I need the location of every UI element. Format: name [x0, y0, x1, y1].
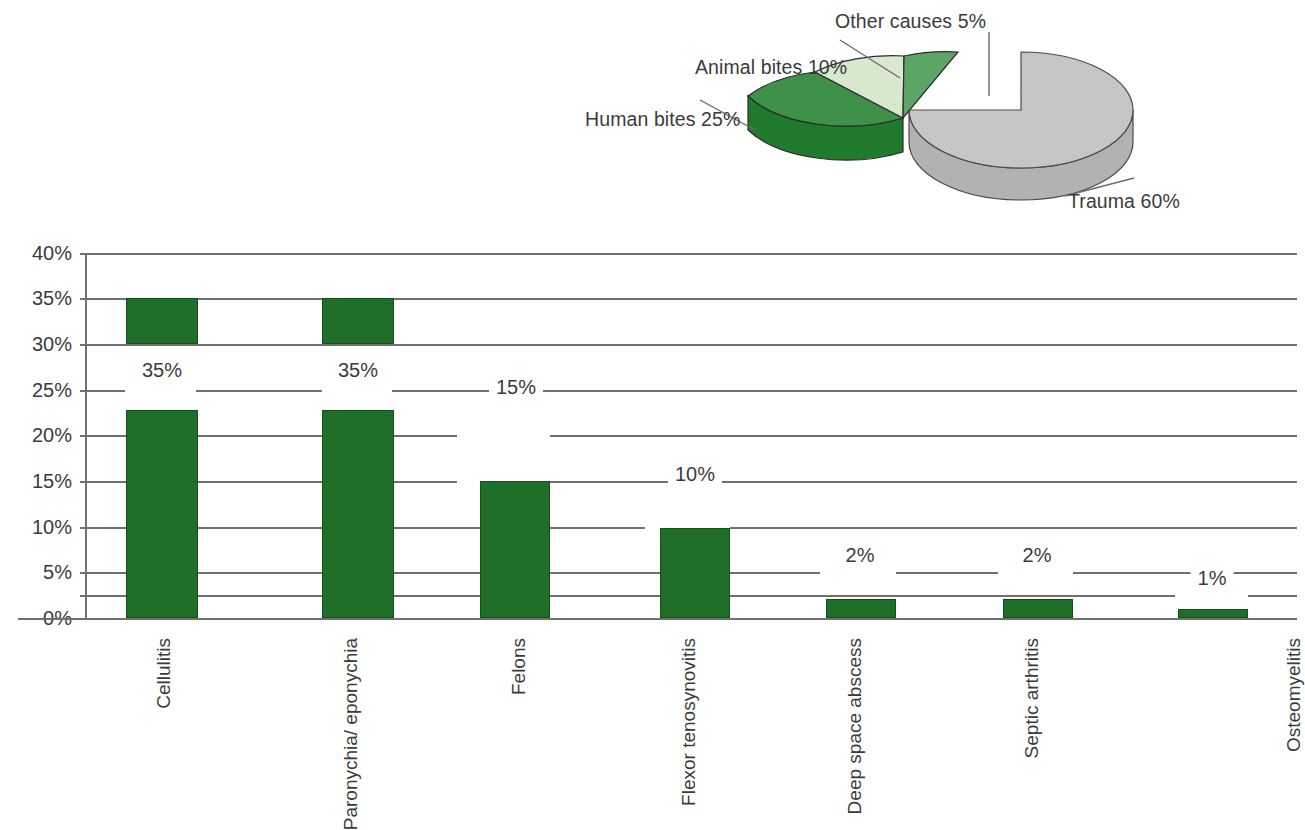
pie-slice-trauma: [908, 52, 1133, 200]
pie-graphic: [660, 0, 1297, 240]
y-tick-15: 15%: [32, 470, 72, 493]
bar-cap-cellulitis: [126, 298, 198, 344]
pie-label-trauma: Trauma 60%: [1068, 190, 1180, 213]
x-category-septic-arthritis: Septic arthritis: [1021, 638, 1043, 758]
data-label-paronychia: 35%: [331, 359, 385, 382]
gridline-5-c: [1073, 572, 1297, 574]
y-axis-line: [85, 253, 87, 620]
x-category-flexor-line1: Flexor: [678, 753, 699, 806]
data-label-cellulitis: 35%: [135, 359, 189, 382]
x-category-paronychia-line2: eponychia: [340, 638, 361, 725]
y-tick-5: 5%: [43, 561, 72, 584]
x-category-deep-space-line2: abscess: [844, 638, 865, 708]
x-category-flexor-line2: tenosynovitis: [678, 638, 699, 748]
gridline-20-b: [550, 435, 1297, 437]
x-category-paronychia-line1: Paronychia/: [340, 730, 361, 830]
pie-slice-other-causes: [903, 52, 958, 118]
bar-felons: [480, 481, 550, 618]
data-label-septic-arthritis: 2%: [1016, 544, 1059, 567]
bar-flexor-tenosynovitis: [660, 528, 730, 618]
gridline-30: [80, 344, 1297, 346]
gridline-35: [80, 298, 1297, 300]
x-category-osteomyelitis: Osteomyelitis: [1283, 638, 1305, 752]
bar-chart: 40% 35% 30% 25% 20% 15% 10% 5% 0%: [0, 240, 1297, 756]
bar-osteomyelitis: [1178, 609, 1248, 618]
y-tick-20: 20%: [32, 424, 72, 447]
x-category-felons-line1: Felons: [508, 638, 529, 695]
x-category-septic-line1: Septic: [1021, 706, 1042, 759]
y-axis-tick-labels: 40% 35% 30% 25% 20% 15% 10% 5% 0%: [0, 240, 72, 640]
gridline-5-b: [896, 572, 998, 574]
x-category-paronychia: Paronychia/ eponychia: [340, 638, 362, 830]
data-label-deep-space-abscess: 2%: [839, 544, 882, 567]
y-tick-35: 35%: [32, 287, 72, 310]
y-tick-40: 40%: [32, 242, 72, 265]
gridline-10-b: [730, 527, 1297, 529]
gridline-25-b: [196, 390, 322, 392]
bar-cellulitis: [126, 410, 198, 618]
pie-chart: Other causes 5% Animal bites 10% Human b…: [660, 0, 1297, 240]
gridline-15-b: [550, 481, 1297, 483]
bar-septic-arthritis: [1003, 599, 1073, 618]
gridline-low-b: [1248, 595, 1297, 597]
x-category-deep-space-abscess: Deep space abscess: [844, 638, 866, 814]
x-category-flexor-tenosynovitis: Flexor tenosynovitis: [678, 638, 700, 806]
data-label-felons: 15%: [489, 376, 543, 399]
pie-label-human-bites: Human bites 25%: [585, 108, 740, 131]
gridline-low-a: [80, 595, 1175, 597]
bar-paronychia: [322, 410, 394, 618]
data-label-flexor-tenosynovitis: 10%: [668, 463, 722, 486]
x-axis-line: [18, 618, 1297, 620]
data-label-osteomyelitis: 1%: [1191, 567, 1234, 590]
x-category-deep-space-line1: Deep space: [844, 713, 865, 814]
y-tick-30: 30%: [32, 333, 72, 356]
x-category-felons: Felons: [508, 638, 530, 695]
bar-cap-paronychia: [322, 298, 394, 344]
bar-deep-space-abscess: [826, 599, 896, 618]
x-category-cellulitis: Cellulitis: [153, 638, 175, 709]
pie-label-other-causes: Other causes 5%: [835, 10, 986, 33]
x-category-septic-line2: arthritis: [1021, 638, 1042, 700]
x-category-cellulitis-line1: Cellulitis: [153, 638, 174, 709]
gridline-40: [80, 253, 1297, 255]
pie-label-animal-bites: Animal bites 10%: [695, 56, 847, 79]
gridline-25-a: [80, 390, 125, 392]
y-tick-10: 10%: [32, 516, 72, 539]
y-tick-25: 25%: [32, 379, 72, 402]
x-category-osteomyelitis-line1: Osteomyelitis: [1283, 638, 1304, 752]
